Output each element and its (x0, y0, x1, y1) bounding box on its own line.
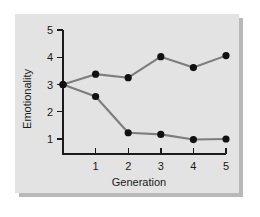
x-tick-label: 4 (190, 160, 196, 172)
x-tick-marks (96, 148, 226, 154)
series-line-0 (63, 56, 226, 85)
data-point (190, 136, 197, 143)
data-point (125, 74, 132, 81)
y-axis-title: Emotionality (21, 69, 33, 129)
y-tick-label: 5 (47, 24, 53, 36)
y-tick-label: 2 (47, 106, 53, 118)
data-point (222, 135, 229, 142)
data-point (92, 93, 99, 100)
x-tick-label: 5 (223, 160, 229, 172)
data-point (92, 71, 99, 78)
x-tick-label: 1 (93, 160, 99, 172)
data-point (157, 131, 164, 138)
data-point (222, 52, 229, 59)
chart-panel: 12345 12345 Generation Emotionality (15, 14, 239, 193)
x-tick-label: 2 (125, 160, 131, 172)
y-tick-labels: 12345 (47, 24, 53, 145)
y-tick-label: 3 (47, 79, 53, 91)
data-point (157, 53, 164, 60)
y-tick-label: 1 (47, 133, 53, 145)
data-series-group (59, 52, 229, 143)
x-tick-labels: 12345 (93, 160, 230, 172)
line-chart: 12345 12345 Generation Emotionality (15, 14, 239, 193)
y-tick-label: 4 (47, 51, 53, 63)
data-point (125, 129, 132, 136)
series-line-1 (63, 85, 226, 140)
axis-lines (63, 30, 226, 154)
data-point (190, 64, 197, 71)
x-tick-label: 3 (158, 160, 164, 172)
data-point (59, 81, 66, 88)
x-axis-title: Generation (112, 176, 166, 188)
figure-root: 12345 12345 Generation Emotionality (0, 0, 260, 217)
